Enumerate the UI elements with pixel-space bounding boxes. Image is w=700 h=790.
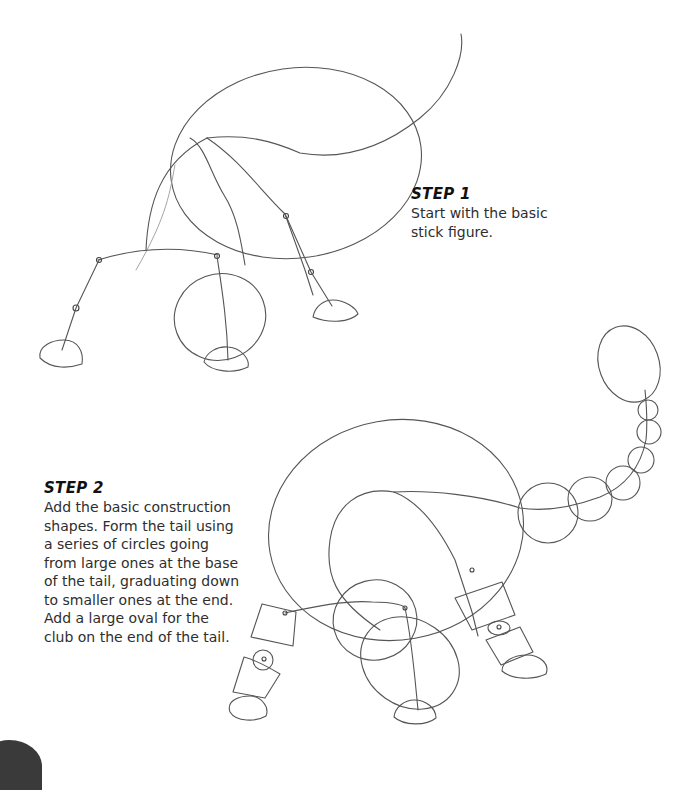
step-2-caption: STEP 2 Add the basic construction shapes… bbox=[44, 479, 274, 646]
step-1-caption: STEP 1 Start with the basic stick figure… bbox=[411, 185, 611, 241]
step-1-title: STEP 1 bbox=[411, 185, 611, 203]
step-1-text: Start with the basic stick figure. bbox=[411, 204, 611, 241]
step-2-text: Add the basic construction shapes. Form … bbox=[44, 498, 274, 646]
step-2-title: STEP 2 bbox=[44, 479, 274, 497]
step1-stick-figure bbox=[40, 34, 462, 373]
step2-construction-figure bbox=[229, 317, 670, 728]
